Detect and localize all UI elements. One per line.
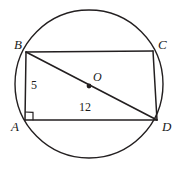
geometry-figure: B C A D O 5 12 — [0, 0, 180, 172]
right-angle-marker-a — [25, 112, 33, 120]
center-label-o: O — [93, 71, 102, 83]
segment-ab — [25, 52, 26, 120]
side-ab-length: 5 — [31, 79, 37, 91]
segment-bc — [26, 51, 153, 52]
segment-cd — [153, 51, 157, 120]
side-ad-length: 12 — [79, 101, 91, 113]
vertex-label-c: C — [158, 38, 167, 51]
vertex-label-a: A — [11, 120, 19, 133]
vertex-label-d: D — [162, 120, 171, 133]
center-point-dot — [87, 84, 92, 89]
vertex-label-b: B — [14, 38, 22, 51]
diagonal-bd — [26, 52, 157, 120]
diagram-canvas — [0, 0, 180, 172]
